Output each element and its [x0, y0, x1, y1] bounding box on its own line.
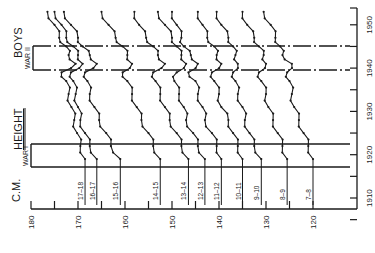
data-point	[218, 86, 220, 88]
data-point	[227, 125, 229, 127]
series-label: 15–16	[112, 182, 119, 200]
data-point	[107, 24, 109, 26]
data-point	[176, 71, 178, 73]
data-point	[53, 11, 55, 13]
data-point	[198, 151, 200, 153]
data-point	[283, 50, 285, 52]
data-point	[169, 119, 171, 121]
data-point	[254, 151, 256, 153]
year-tick-label: 1910	[365, 189, 374, 207]
data-point	[274, 37, 276, 39]
data-point	[169, 112, 171, 114]
data-point	[180, 30, 182, 32]
data-point	[70, 67, 72, 69]
data-point	[272, 119, 274, 121]
data-point	[70, 106, 72, 108]
year-tick-label: 1930	[365, 102, 374, 120]
data-point	[140, 119, 142, 121]
data-point	[180, 58, 182, 60]
height-tick-label: 150	[168, 215, 177, 229]
data-point	[152, 45, 154, 47]
data-point	[77, 58, 79, 60]
data-point	[83, 76, 85, 78]
data-point	[79, 119, 81, 121]
data-point	[281, 145, 283, 147]
data-point	[122, 71, 124, 73]
data-point	[72, 125, 74, 127]
data-point	[264, 17, 266, 19]
data-point	[187, 71, 189, 73]
data-point	[60, 71, 62, 73]
data-point	[236, 50, 238, 52]
series-label: 12–13	[197, 182, 204, 200]
data-point	[232, 71, 234, 73]
data-point	[244, 125, 246, 127]
data-point	[231, 76, 233, 78]
data-point	[216, 145, 218, 147]
data-point	[244, 119, 246, 121]
data-point	[215, 17, 217, 19]
data-point	[58, 37, 60, 39]
data-point	[176, 132, 178, 134]
data-point	[237, 63, 239, 65]
data-point	[215, 58, 217, 60]
war2-label: WAR II	[24, 47, 31, 69]
data-point	[170, 30, 172, 32]
data-point	[79, 151, 81, 153]
data-point	[99, 125, 101, 127]
data-point	[93, 106, 95, 108]
data-point	[178, 86, 180, 88]
data-point	[112, 151, 114, 153]
data-point	[291, 67, 293, 69]
data-point	[76, 132, 78, 134]
series-line	[102, 12, 161, 159]
data-point	[65, 30, 67, 32]
data-point	[98, 112, 100, 114]
data-point	[84, 71, 86, 73]
height-chart: HEIGHT BOYS C.M. 12013014015016017018019…	[0, 0, 375, 253]
series-label: 8–9	[279, 189, 286, 200]
data-point	[277, 132, 279, 134]
data-point	[59, 41, 61, 43]
series-label: 11–12	[213, 182, 220, 200]
data-point	[272, 112, 274, 114]
data-point	[86, 80, 88, 82]
data-point	[63, 11, 65, 13]
data-point	[78, 67, 80, 69]
data-point	[90, 151, 92, 153]
data-point	[237, 99, 239, 101]
data-point	[100, 11, 102, 13]
data-point	[159, 93, 161, 95]
data-point	[96, 63, 98, 65]
data-point	[90, 86, 92, 88]
data-point	[197, 11, 199, 13]
data-point	[70, 71, 72, 73]
data-point	[291, 63, 293, 65]
data-point	[164, 24, 166, 26]
data-point	[47, 17, 49, 19]
data-point	[233, 58, 235, 60]
data-point	[171, 37, 173, 39]
data-point	[126, 50, 128, 52]
data-point	[197, 138, 199, 140]
data-point	[65, 45, 67, 47]
data-point	[207, 41, 209, 43]
data-point	[66, 41, 68, 43]
data-point	[178, 99, 180, 101]
data-point	[188, 76, 190, 78]
data-point	[58, 30, 60, 32]
data-point	[76, 86, 78, 88]
data-point	[298, 119, 300, 121]
data-point	[60, 76, 62, 78]
data-point	[261, 58, 263, 60]
data-point	[263, 11, 265, 13]
data-point	[265, 63, 267, 65]
data-point	[65, 80, 67, 82]
data-point	[217, 99, 219, 101]
data-point	[289, 99, 291, 101]
data-point	[284, 58, 286, 60]
data-point	[217, 50, 219, 52]
data-point	[183, 67, 185, 69]
data-point	[153, 151, 155, 153]
data-point	[160, 67, 162, 69]
